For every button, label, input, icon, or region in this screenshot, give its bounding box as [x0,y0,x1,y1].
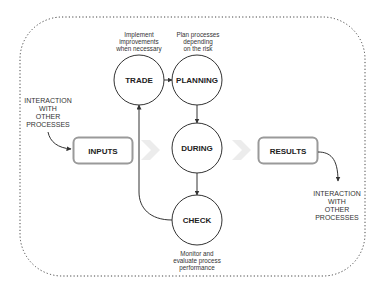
check-to-trade-arrow [139,105,172,220]
process-diagram: INPUTS RESULTS TRADE PLANNING DURING CHE… [0,0,379,294]
results-box[interactable]: RESULTS [259,138,318,164]
planning-node[interactable]: PLANNING [172,55,222,105]
svg-text:Monitor and: Monitor and [180,250,214,257]
right-interaction-arrow [318,152,338,181]
svg-text:on the risk: on the risk [183,45,213,52]
during-node[interactable]: DURING [172,123,222,173]
svg-text:INTERACTION: INTERACTION [24,97,71,104]
svg-text:when necessary: when necessary [115,45,162,53]
svg-text:PROCESSES: PROCESSES [26,121,70,128]
check-node[interactable]: CHECK [172,195,222,245]
svg-text:INTERACTION: INTERACTION [313,190,360,197]
svg-text:PROCESSES: PROCESSES [315,214,359,221]
svg-text:WITH: WITH [39,105,57,112]
svg-text:WITH: WITH [328,198,346,205]
check-label: CHECK [183,216,212,225]
results-label: RESULTS [270,147,307,156]
left-interaction-text: INTERACTION WITH OTHER PROCESSES [24,97,71,128]
svg-text:performance: performance [179,264,215,272]
planning-note: Plan processes depending on the risk [176,31,219,52]
svg-text:OTHER: OTHER [325,206,350,213]
planning-label: PLANNING [176,76,218,85]
left-interaction-arrow [48,132,71,149]
trade-note: Implement improvements when necessary [115,31,162,53]
svg-text:OTHER: OTHER [36,113,61,120]
trade-label: TRADE [125,76,153,85]
during-label: DURING [181,144,213,153]
check-note: Monitor and evaluate process performance [173,250,221,272]
chevron-arrow-icon [141,140,160,160]
inputs-box[interactable]: INPUTS [74,138,133,164]
chevron-arrow-icon [232,140,251,160]
trade-node[interactable]: TRADE [114,55,164,105]
inputs-label: INPUTS [88,147,118,156]
right-interaction-text: INTERACTION WITH OTHER PROCESSES [313,190,360,221]
